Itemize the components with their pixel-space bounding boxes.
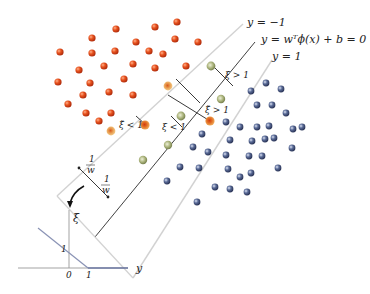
red-point — [159, 50, 166, 57]
hinge-tick-x0: 0 — [66, 270, 72, 280]
curved-arrow-icon — [70, 186, 84, 203]
hinge-x-axis-label: y — [135, 262, 143, 275]
slack-label-xi-lt1: ξ < 1 — [162, 122, 186, 132]
slack-label-xi-gt1: ξ > 1 — [225, 70, 249, 80]
blue-point — [263, 80, 270, 87]
red-point — [75, 66, 82, 73]
red-point — [194, 38, 201, 45]
blue-point — [246, 153, 253, 160]
red-point — [95, 117, 102, 124]
blue-class-points — [164, 80, 306, 206]
boundary-lines — [57, 24, 272, 278]
blue-point — [227, 186, 234, 193]
blue-point — [266, 123, 273, 130]
margin-width-labels: 1 w 1 w — [86, 154, 110, 195]
margin-brackets — [57, 167, 133, 278]
red-point — [56, 48, 63, 55]
red-point — [88, 49, 95, 56]
svm-diagram: y = −1 y = wᵀϕ(x) + b = 0 y = 1 ξ > 1 ξ̃… — [0, 0, 370, 294]
blue-point — [212, 184, 219, 191]
blue-point — [248, 170, 255, 177]
blue-point — [283, 110, 290, 117]
blue-point — [254, 124, 261, 131]
slack-label-xi-tilde-gt1: ξ̃ > 1 — [205, 105, 229, 115]
red-point — [82, 109, 89, 116]
slack-label-xi-tilde-lt1: ξ̃ < 1 — [119, 120, 143, 130]
support-point-green — [164, 141, 172, 149]
blue-point — [225, 166, 232, 173]
red-point — [105, 88, 112, 95]
blue-point — [275, 165, 282, 172]
blue-point — [269, 102, 276, 109]
blue-point — [278, 86, 285, 93]
red-point — [120, 75, 127, 82]
blue-point — [164, 178, 171, 185]
blue-point — [205, 149, 212, 156]
blue-point — [196, 165, 203, 172]
blue-point — [237, 174, 244, 181]
red-point — [79, 91, 86, 98]
blue-point — [223, 152, 230, 159]
blue-point — [259, 153, 266, 160]
red-point — [132, 38, 139, 45]
red-point — [145, 47, 152, 54]
support-point-green — [177, 112, 186, 121]
support-point-orange — [107, 127, 116, 136]
blue-point — [177, 164, 184, 171]
blue-point — [227, 137, 234, 144]
blue-point — [248, 88, 255, 95]
upper-margin-numerator: 1 — [89, 154, 95, 164]
red-point — [151, 23, 158, 30]
misclassified-point-orange — [205, 116, 214, 125]
blue-point — [290, 126, 297, 133]
red-point — [171, 35, 178, 42]
blue-point — [262, 136, 269, 143]
red-point — [173, 18, 180, 25]
hinge-y-axis-label: ξ — [73, 212, 80, 225]
lower-margin-denominator: w — [102, 185, 110, 195]
red-point — [182, 62, 189, 69]
blue-point — [249, 138, 256, 145]
support-point-green — [207, 62, 216, 71]
blue-point — [237, 124, 244, 131]
support-point-green — [217, 95, 225, 103]
red-point — [64, 100, 71, 107]
blue-point — [199, 131, 206, 138]
red-point — [112, 25, 119, 32]
boundary-labels: y = −1 y = wᵀϕ(x) + b = 0 y = 1 — [246, 16, 366, 63]
blue-point — [271, 135, 278, 142]
blue-point — [254, 102, 261, 109]
blue-point — [244, 189, 251, 196]
red-point — [151, 64, 158, 71]
red-point — [107, 109, 114, 116]
red-class-points — [54, 18, 201, 124]
hinge-tick-x1: 1 — [86, 270, 92, 280]
support-point-green — [139, 156, 147, 164]
positive-margin-label: y = 1 — [271, 50, 301, 63]
support-point-orange — [164, 82, 173, 91]
red-point — [129, 91, 136, 98]
red-point — [86, 79, 93, 86]
red-point — [111, 47, 118, 54]
red-point — [100, 62, 107, 69]
blue-point — [194, 199, 201, 206]
upper-margin-denominator: w — [87, 165, 95, 175]
red-point — [88, 34, 95, 41]
negative-margin-label: y = −1 — [246, 16, 286, 29]
blue-point — [299, 124, 306, 131]
blue-point — [223, 119, 230, 126]
hinge-tick-y1: 1 — [61, 244, 67, 254]
blue-point — [190, 144, 197, 151]
red-point — [54, 78, 61, 85]
red-point — [129, 60, 136, 67]
lower-margin-numerator: 1 — [104, 174, 110, 184]
decision-boundary-label: y = wᵀϕ(x) + b = 0 — [260, 33, 366, 46]
blue-point — [289, 145, 296, 152]
